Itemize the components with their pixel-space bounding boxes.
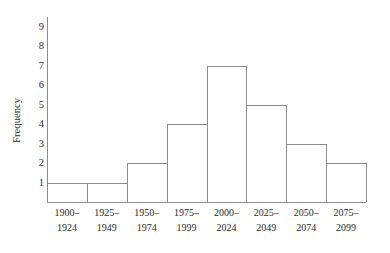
- x-tick-label-line: 2099: [326, 221, 366, 236]
- histogram-bar: [47, 183, 88, 202]
- y-tick-label: 4: [28, 119, 44, 129]
- bars-layer: [47, 17, 366, 202]
- x-tick-label: 2000–2024: [207, 206, 247, 235]
- y-tick-label: 5: [28, 100, 44, 110]
- y-tick-label: 9: [28, 22, 44, 32]
- histogram-chart: Frequency 123456789 1900–19241925–194919…: [0, 0, 390, 253]
- x-tick-label-line: 1974: [127, 221, 167, 236]
- x-tick-label-line: 2075–: [326, 206, 366, 221]
- x-tick-label: 2075–2099: [326, 206, 366, 235]
- x-tick-label-line: 1924: [47, 221, 87, 236]
- y-tick-label: 7: [28, 61, 44, 71]
- y-tick-label: 6: [28, 80, 44, 90]
- x-tick-label: 1975–1999: [167, 206, 207, 235]
- x-tick-label-line: 1925–: [87, 206, 127, 221]
- histogram-bar: [326, 163, 367, 202]
- y-tick-label: 3: [28, 139, 44, 149]
- x-tick-label-line: 2050–: [286, 206, 326, 221]
- y-tick-label: 1: [28, 178, 44, 188]
- y-axis-title: Frequency: [10, 78, 24, 162]
- x-tick-label: 1925–1949: [87, 206, 127, 235]
- x-tick-label-line: 2049: [246, 221, 286, 236]
- y-axis-tick-labels: 123456789: [25, 0, 44, 253]
- histogram-bar: [167, 124, 208, 202]
- x-tick-label-line: 1900–: [47, 206, 87, 221]
- x-axis-line: [47, 202, 366, 203]
- x-tick-label-line: 1949: [87, 221, 127, 236]
- x-axis-tick-labels: 1900–19241925–19491950–19741975–19992000…: [47, 206, 366, 246]
- x-tick-label-line: 2074: [286, 221, 326, 236]
- x-tick-label-line: 1975–: [167, 206, 207, 221]
- x-tick-label-line: 2000–: [207, 206, 247, 221]
- histogram-bar: [246, 105, 287, 202]
- histogram-bar: [87, 183, 128, 202]
- x-tick-label-line: 1999: [167, 221, 207, 236]
- x-tick-label: 1900–1924: [47, 206, 87, 235]
- x-tick-label: 2025–2049: [246, 206, 286, 235]
- x-tick-label: 2050–2074: [286, 206, 326, 235]
- y-tick-label: 8: [28, 41, 44, 51]
- histogram-bar: [207, 66, 248, 202]
- histogram-bar: [286, 144, 327, 202]
- x-tick-label-line: 2024: [207, 221, 247, 236]
- x-tick-label: 1950–1974: [127, 206, 167, 235]
- histogram-bar: [127, 163, 168, 202]
- x-tick-label-line: 2025–: [246, 206, 286, 221]
- x-tick-label-line: 1950–: [127, 206, 167, 221]
- y-tick-label: 2: [28, 158, 44, 168]
